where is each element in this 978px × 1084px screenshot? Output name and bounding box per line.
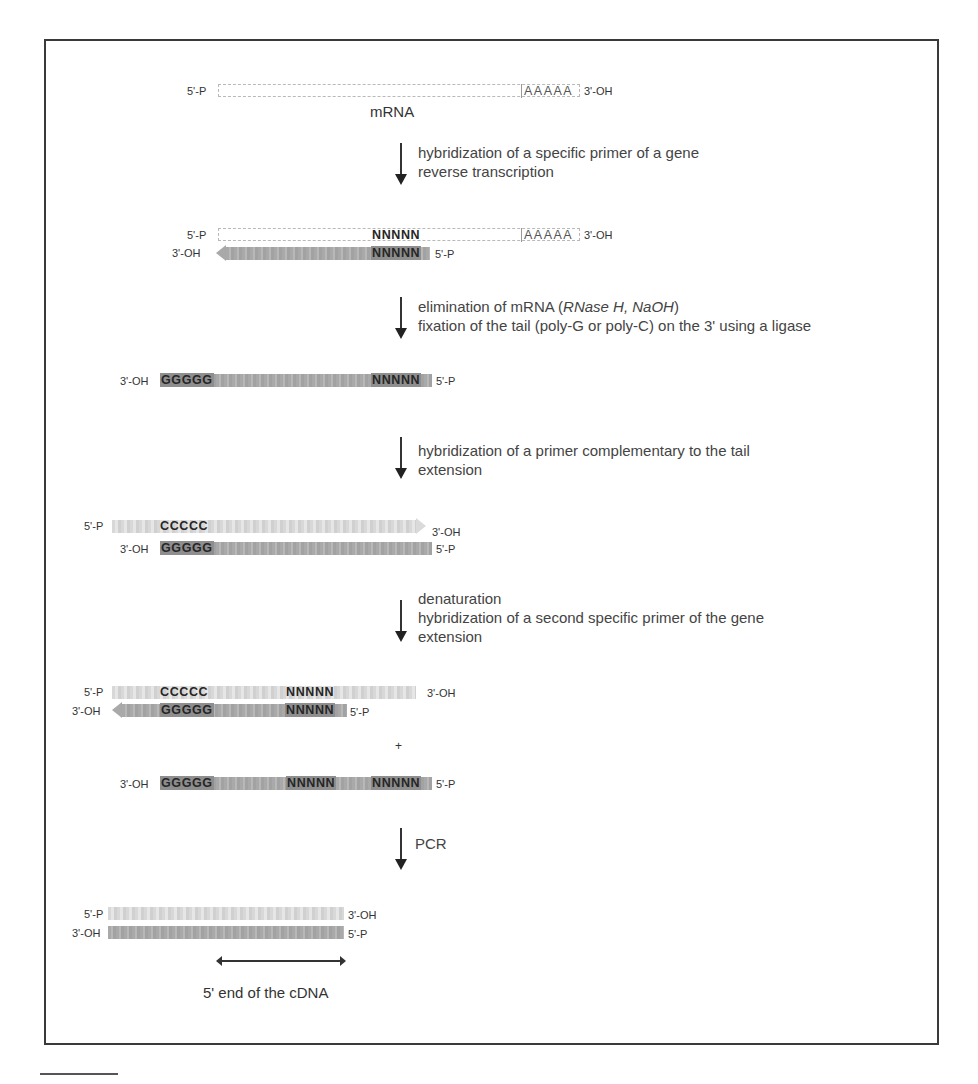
- step-4-line-1: denaturation: [418, 589, 764, 608]
- step-5-text: PCR: [415, 834, 447, 853]
- row4-poly-g: GGGGG: [160, 541, 214, 555]
- step-4-line-3: extension: [418, 627, 764, 646]
- row5-bottom-n-seq: NNNNN: [285, 703, 335, 717]
- step-4-text: denaturation hybridization of a second s…: [418, 589, 764, 646]
- row5-top-strand: CCCCC NNNNN: [112, 686, 416, 699]
- row6-five-prime: 5'-P: [436, 778, 455, 790]
- row6-n-seq-2: NNNNN: [371, 776, 421, 790]
- row2-bottom-three-prime: 3'-OH: [172, 247, 200, 259]
- row5-top-five-prime: 5'-P: [84, 686, 103, 698]
- row3-n-seq: NNNNN: [371, 373, 421, 387]
- row7-bottom-three-prime: 3'-OH: [72, 927, 100, 939]
- cdna-caption: 5' end of the cDNA: [203, 984, 328, 1001]
- step-3-text: hybridization of a primer complementary …: [418, 441, 750, 479]
- row2-cdna-strand: NNNNN: [226, 247, 430, 260]
- row7-top-five-prime: 5'-P: [84, 908, 103, 920]
- row4-top-five-prime: 5'-P: [84, 520, 103, 532]
- row5-bottom-strand: GGGGG NNNNN: [122, 704, 347, 717]
- mrna-title: mRNA: [370, 103, 414, 120]
- row4-first-strand: GGGGG: [160, 542, 432, 555]
- row4-bottom-five-prime: 5'-P: [436, 543, 455, 555]
- step-3-down-arrow-icon: [395, 437, 407, 481]
- footer-rule: [40, 1073, 118, 1075]
- step-2-line-2: fixation of the tail (poly-G or poly-C) …: [418, 316, 811, 335]
- row4-poly-c: CCCCC: [160, 519, 208, 533]
- step-2-reagents: RNase H, NaOH: [563, 298, 674, 315]
- row5-bottom-five-prime: 5'-P: [350, 706, 369, 718]
- step-1-text: hybridization of a specific primer of a …: [418, 143, 699, 181]
- step-1-down-arrow-icon: [395, 143, 407, 187]
- step-2-text: elimination of mRNA (RNase H, NaOH) fixa…: [418, 297, 811, 335]
- mrna-three-prime-label: 3'-OH: [584, 85, 612, 97]
- step-3-line-2: extension: [418, 460, 750, 479]
- row3-five-prime: 5'-P: [436, 375, 455, 387]
- row7-bottom-strand: [108, 926, 344, 939]
- row4-second-strand: CCCCC: [112, 520, 416, 533]
- step-4-down-arrow-icon: [395, 600, 407, 644]
- cdna-span-double-arrow-icon: [218, 960, 344, 962]
- step-4-line-2: hybridization of a second specific prime…: [418, 608, 764, 627]
- step-2-line-1c: ): [674, 298, 679, 315]
- row7-top-strand: [108, 907, 344, 920]
- row2-top-n-seq: NNNNN: [372, 228, 420, 242]
- row3-tailed-cdna: GGGGG NNNNN: [160, 374, 432, 387]
- step-1-line-1: hybridization of a specific primer of a …: [418, 143, 699, 162]
- step-3-line-1: hybridization of a primer complementary …: [418, 441, 750, 460]
- row2-mrna-strand: NNNNN AAAAA: [218, 228, 580, 241]
- row5-top-n-seq: NNNNN: [286, 685, 334, 699]
- step-5-line-1: PCR: [415, 834, 447, 853]
- row5-poly-c: CCCCC: [160, 685, 208, 699]
- mrna-strand: AAAAA: [218, 84, 580, 97]
- step-5-down-arrow-icon: [395, 828, 407, 872]
- plus-sign: +: [395, 740, 402, 752]
- row7-bottom-five-prime: 5'-P: [348, 928, 367, 940]
- row2-top-three-prime: 3'-OH: [584, 229, 612, 241]
- row5-poly-g: GGGGG: [160, 703, 214, 717]
- row6-poly-g: GGGGG: [160, 776, 214, 790]
- row4-top-three-prime: 3'-OH: [432, 526, 460, 538]
- row5-top-three-prime: 3'-OH: [427, 687, 455, 699]
- step-2-line-1a: elimination of mRNA (: [418, 298, 563, 315]
- step-2-down-arrow-icon: [395, 297, 407, 341]
- mrna-five-prime-label: 5'-P: [187, 85, 206, 97]
- row6-strand: GGGGG NNNNN NNNNN: [160, 777, 432, 790]
- row2-poly-a-tail: AAAAA: [521, 228, 573, 242]
- step-1-line-2: reverse transcription: [418, 162, 699, 181]
- row6-three-prime: 3'-OH: [120, 778, 148, 790]
- row5-bottom-three-prime: 3'-OH: [72, 705, 100, 717]
- step-2-line-1: elimination of mRNA (RNase H, NaOH): [418, 297, 811, 316]
- row6-n-seq-1: NNNNN: [286, 776, 336, 790]
- row2-top-five-prime: 5'-P: [187, 229, 206, 241]
- row7-top-three-prime: 3'-OH: [348, 909, 376, 921]
- row3-three-prime: 3'-OH: [120, 375, 148, 387]
- poly-a-tail: AAAAA: [521, 84, 573, 98]
- row3-poly-g: GGGGG: [160, 373, 214, 387]
- row2-bottom-n-seq: NNNNN: [371, 246, 421, 260]
- row4-bottom-three-prime: 3'-OH: [120, 543, 148, 555]
- row2-bottom-five-prime: 5'-P: [435, 248, 454, 260]
